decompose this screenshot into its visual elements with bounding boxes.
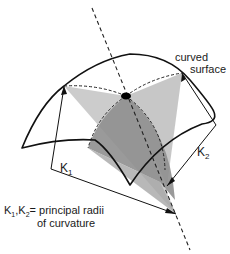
legend-line1: K1,K2= principal radii (4, 204, 104, 218)
k2-label: K2 (197, 145, 210, 161)
k1-label: K1 (60, 161, 73, 177)
curvature-diagram: curved surface K1 K2 K1,K2= principal ra… (0, 0, 230, 254)
surface-label-line1: curved (175, 51, 208, 63)
center-point (121, 92, 131, 99)
legend-line2: of curvature (37, 217, 95, 229)
surface-label-line2: surface (190, 63, 226, 75)
